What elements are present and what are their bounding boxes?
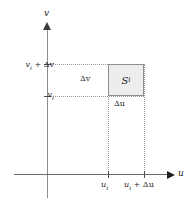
- arrow-right-icon: [167, 171, 175, 179]
- x-tick-label-ui: ui: [101, 180, 108, 191]
- subrectangle-label-sub: i: [128, 76, 130, 84]
- v-axis-label: v: [44, 8, 49, 18]
- tick-mark-u-left: [108, 171, 109, 178]
- x-tick-label-ui-plus-du: ui + Δu: [124, 180, 154, 191]
- y-tick-label-vi: vi: [48, 90, 54, 101]
- guide-line-horizontal-lower: [51, 96, 144, 97]
- y-tick-label-vi-plus-dv: vi + Δv: [25, 60, 54, 71]
- subrectangle-label: Si: [109, 65, 143, 95]
- delta-u-label: Δu: [114, 99, 125, 108]
- uv-plane-diagram: v u vi + Δv vi ui ui + Δu Δv Δu Si: [0, 0, 194, 203]
- subrectangle-label-main: S: [121, 75, 128, 86]
- delta-v-text: Δv: [80, 74, 90, 83]
- subrectangle-patch: Si: [108, 64, 144, 96]
- u-axis-label: u: [178, 168, 184, 178]
- y-tick-label-vi-plus-dv-suffix: + Δv: [32, 60, 54, 69]
- arrow-up-icon: [43, 22, 51, 30]
- x-tick-label-ui-sub: i: [106, 184, 108, 191]
- guide-line-vertical-right: [144, 64, 145, 174]
- v-axis-line: [47, 28, 48, 198]
- tick-mark-u-right: [144, 171, 145, 178]
- delta-v-label: Δv: [80, 74, 90, 83]
- y-tick-label-vi-sub: i: [52, 94, 54, 101]
- delta-u-text: Δu: [114, 99, 125, 108]
- u-axis-line: [14, 174, 169, 175]
- x-tick-label-ui-plus-du-suffix: + Δu: [131, 180, 154, 189]
